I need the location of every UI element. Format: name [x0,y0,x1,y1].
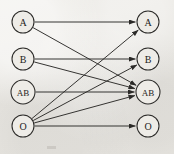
graph-canvas: ABABOABABO [0,0,174,154]
donor-node: B [12,48,34,70]
donor-node: A [12,11,34,33]
recipient-node: AB [136,80,160,104]
recipient-node: A [137,11,159,33]
recipient-node: O [137,115,159,137]
node-label: AB [17,88,30,98]
node-label: O [144,121,151,132]
scan-smudge [47,146,56,149]
node-label: A [144,17,152,28]
edge-arrow [33,65,137,121]
node-label: AB [142,88,155,98]
blood-type-compatibility-diagram: ABABOABABO [0,0,174,154]
donor-node: AB [11,80,35,104]
node-label: B [145,54,152,65]
edge-arrow [34,96,135,123]
node-label: A [19,17,27,28]
node-label: B [20,54,27,65]
node-label: O [19,121,26,132]
artifacts-layer [47,146,56,149]
edges-layer [32,22,138,126]
edge-arrow [32,30,138,119]
edge-arrow [33,28,136,86]
donor-node: O [12,115,34,137]
recipient-node: B [137,48,159,70]
